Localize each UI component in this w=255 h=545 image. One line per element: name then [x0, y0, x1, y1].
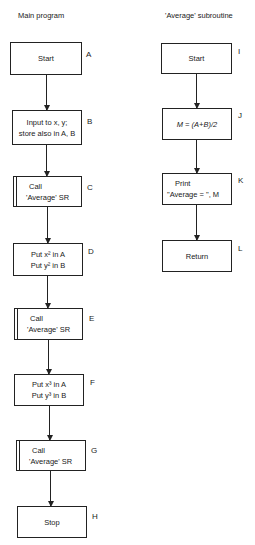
box-label-a: A	[86, 50, 91, 59]
flowchart-box-e: Call 'Average' SR	[14, 308, 83, 340]
box-text: 'Average' SR	[27, 324, 70, 335]
box-text: Call	[31, 445, 45, 456]
box-text: Put x² in A	[31, 249, 65, 260]
box-label-g: G	[91, 446, 97, 455]
flowchart-box-j: M = (A+B)/2	[162, 108, 232, 140]
box-label-h: H	[92, 512, 98, 521]
box-text: Start	[38, 53, 54, 64]
box-text: 'Average' SR	[29, 456, 72, 467]
box-label-f: F	[90, 378, 95, 387]
box-label-c: C	[87, 183, 93, 192]
flowchart-box-c: Call 'Average' SR	[13, 176, 82, 207]
flowchart-box-i: Start	[161, 43, 232, 74]
arrow-e-f	[48, 340, 49, 374]
arrow-f-g	[49, 406, 50, 440]
arrow-c-d	[47, 207, 48, 243]
arrow-a-b	[46, 75, 47, 110]
box-label-d: D	[88, 247, 94, 256]
box-label-e: E	[89, 314, 94, 323]
subroutine-title: 'Average' subroutine	[165, 11, 233, 20]
box-text: Put x³ in A	[32, 379, 66, 390]
box-text: "Average = ", M	[167, 189, 219, 200]
box-label-l: L	[238, 244, 242, 253]
box-label-k: K	[238, 176, 243, 185]
box-label-i: I	[238, 47, 240, 56]
box-label-j: J	[238, 111, 242, 120]
flowchart-box-d: Put x² in A Put y² in B	[13, 243, 83, 276]
box-text: Call	[29, 313, 43, 324]
arrow-b-c	[46, 145, 47, 176]
flowchart-box-a: Start	[10, 42, 82, 75]
flowchart-box-h: Stop	[17, 506, 87, 538]
flowchart-box-l: Return	[162, 240, 232, 272]
box-text: Put y³ in B	[32, 390, 67, 401]
box-text: Call	[28, 181, 42, 192]
arrow-j-k	[196, 140, 197, 173]
box-text: Return	[186, 251, 209, 262]
box-text: Put y² in B	[31, 260, 66, 271]
flowchart-box-k: Print "Average = ", M	[162, 173, 232, 205]
box-text: 'Average' SR	[26, 192, 69, 203]
box-text: Start	[189, 53, 205, 64]
arrow-k-l	[196, 205, 197, 240]
arrow-i-j	[196, 74, 197, 108]
box-text: Print	[167, 178, 190, 189]
main-program-title: Main program	[18, 11, 64, 20]
box-text: Input to x, y;	[27, 117, 68, 128]
arrow-d-e	[47, 276, 48, 308]
box-label-b: B	[87, 117, 92, 126]
arrow-g-h	[50, 471, 51, 506]
flowchart-box-f: Put x³ in A Put y³ in B	[14, 374, 84, 406]
box-text: M = (A+B)/2	[177, 119, 217, 130]
flowchart-box-g: Call 'Average' SR	[16, 440, 86, 471]
flowchart-box-b: Input to x, y; store also in A, B	[12, 110, 82, 145]
box-text: Stop	[44, 517, 59, 528]
box-text: store also in A, B	[19, 128, 75, 139]
